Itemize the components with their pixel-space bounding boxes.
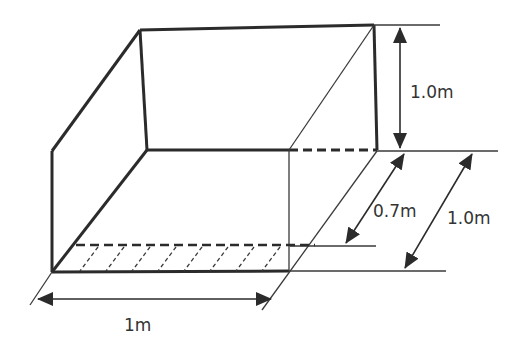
- dimension-arrows: [38, 28, 472, 299]
- right-top-slant: [289, 25, 374, 150]
- tank-diagram: 1.0m 0.7m 1.0m 1m: [0, 0, 528, 352]
- left-base-extension: [30, 272, 52, 305]
- back-right-edge: [374, 25, 377, 150]
- water-hatching: [80, 247, 280, 271]
- front-bottom-edge: [52, 271, 289, 272]
- label-upper-height: 1.0m: [410, 82, 454, 102]
- label-base-width: 1m: [124, 315, 151, 335]
- back-left-edge: [140, 30, 147, 150]
- back-top-edge: [140, 25, 374, 30]
- box-outline: [52, 25, 377, 272]
- floor-left-slant: [52, 150, 147, 272]
- label-total-depth: 1.0m: [447, 208, 491, 228]
- arrow-water-depth: [346, 154, 404, 243]
- left-top-slant: [52, 30, 140, 151]
- right-bottom-slant: [262, 151, 377, 310]
- thin-lines: [30, 25, 498, 310]
- label-water-depth: 0.7m: [373, 201, 417, 221]
